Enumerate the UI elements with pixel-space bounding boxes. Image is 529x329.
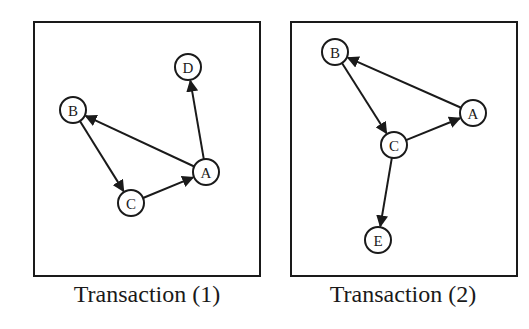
node-label: E — [373, 233, 382, 249]
node-b: B — [322, 39, 348, 65]
node-b: B — [60, 97, 86, 123]
transaction-1-panel: ABCDTransaction (1) — [34, 22, 260, 307]
node-label: B — [68, 103, 78, 119]
node-a: A — [460, 100, 486, 126]
node-c: C — [381, 132, 407, 158]
transaction-2-panel: ABCETransaction (2) — [291, 22, 517, 307]
node-label: C — [389, 138, 399, 154]
panel-frame — [34, 22, 260, 276]
node-e: E — [365, 227, 391, 253]
node-label: B — [330, 45, 340, 61]
transaction-graphs-diagram: ABCDTransaction (1) ABCETransaction (2) — [0, 0, 529, 329]
panel-caption: Transaction (2) — [330, 281, 476, 307]
node-label: A — [468, 106, 479, 122]
node-a: A — [193, 159, 219, 185]
node-label: D — [183, 60, 194, 76]
panel-caption: Transaction (1) — [74, 281, 220, 307]
node-label: C — [126, 196, 136, 212]
node-c: C — [118, 190, 144, 216]
node-label: A — [201, 165, 212, 181]
node-d: D — [175, 54, 201, 80]
